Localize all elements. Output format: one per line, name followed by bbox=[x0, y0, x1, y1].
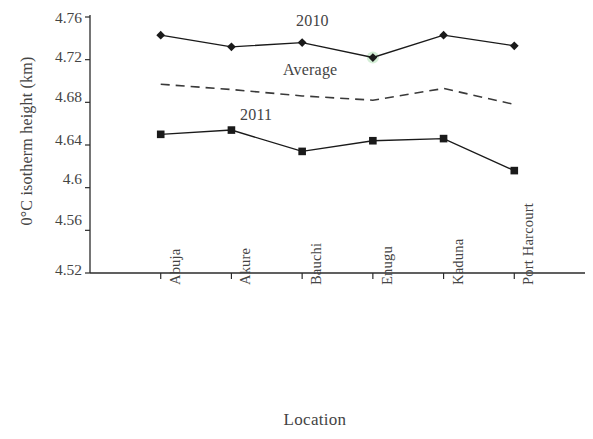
series-label-average: Average bbox=[283, 61, 337, 79]
data-point-marker bbox=[298, 148, 306, 156]
series-line bbox=[161, 130, 515, 171]
data-point-marker bbox=[157, 131, 165, 139]
series-2010 bbox=[156, 31, 518, 62]
chart-figure: 0°C isotherm height (km) 4.76 4.72 4.68 … bbox=[0, 0, 593, 439]
data-point-marker bbox=[510, 167, 518, 175]
series-line bbox=[161, 84, 515, 104]
x-tick-label: Akure bbox=[237, 248, 254, 285]
data-series-layer bbox=[156, 31, 518, 175]
data-point-marker bbox=[298, 38, 307, 47]
x-axis-title: Location bbox=[150, 410, 480, 430]
data-point-marker bbox=[156, 31, 165, 40]
data-point-marker bbox=[510, 41, 519, 50]
x-tick-label: Kaduna bbox=[450, 239, 467, 285]
x-tick-label: Enugu bbox=[379, 246, 396, 285]
x-tick-label: Bauchi bbox=[308, 243, 325, 285]
data-point-marker bbox=[369, 137, 377, 145]
series-average bbox=[161, 84, 515, 104]
data-point-marker bbox=[440, 135, 448, 143]
data-point-marker bbox=[227, 42, 236, 51]
x-tick-label: Abuja bbox=[167, 249, 184, 285]
series-label-2011: 2011 bbox=[240, 106, 272, 124]
series-2011 bbox=[157, 126, 518, 174]
series-line bbox=[161, 35, 515, 57]
data-point-marker bbox=[228, 126, 236, 134]
y-tick-marks bbox=[85, 17, 90, 273]
data-point-marker bbox=[439, 31, 448, 40]
x-tick-label: Port Harcourt bbox=[520, 203, 537, 285]
series-label-2010: 2010 bbox=[296, 12, 329, 30]
